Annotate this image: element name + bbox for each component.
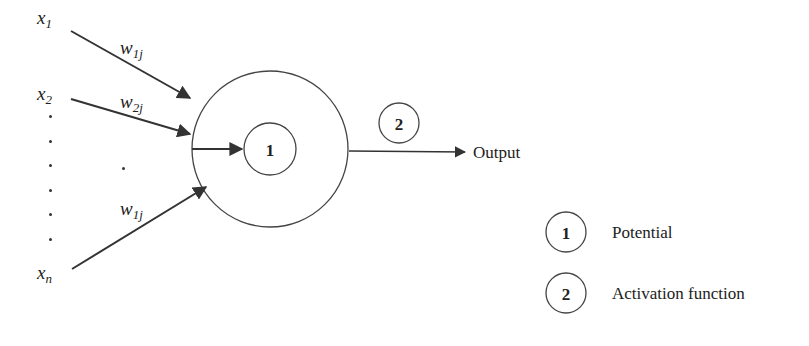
- output-arrow: [349, 151, 465, 152]
- input-label-x2: x2: [37, 84, 52, 106]
- ellipsis-dot: [122, 167, 125, 170]
- ellipsis-dot: [49, 238, 52, 241]
- weight-label-w2j: w2j: [120, 92, 143, 114]
- input-label-xn: xn: [37, 263, 52, 285]
- potential-number: 1: [266, 142, 275, 159]
- input-label-x1: x1: [37, 8, 52, 30]
- activation-number: 2: [395, 116, 404, 133]
- ellipsis-dot: [49, 115, 52, 118]
- legend-text-activation: Activation function: [612, 285, 745, 302]
- ellipsis-dot: [49, 140, 52, 143]
- ellipsis-dot: [49, 189, 52, 192]
- weight-label-w1j: w1j: [120, 38, 143, 60]
- ellipsis-dot: [49, 164, 52, 167]
- output-label: Output: [473, 144, 520, 161]
- ellipsis-dot: [49, 213, 52, 216]
- legend-number-2: 2: [562, 286, 571, 303]
- legend-number-1: 1: [562, 225, 571, 242]
- neuron-diagram: x1 x2 xn w1j w2j w1j 1 2 Output 1 Potent…: [0, 0, 809, 346]
- weight-label-wnj: w1j: [120, 199, 143, 221]
- legend-text-potential: Potential: [612, 224, 672, 241]
